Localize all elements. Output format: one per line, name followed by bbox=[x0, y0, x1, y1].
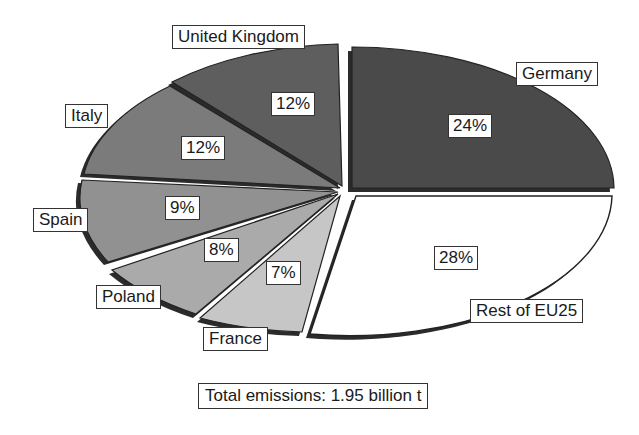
label-france: France bbox=[203, 327, 268, 351]
label-italy: Italy bbox=[65, 104, 108, 128]
percent-spain: 9% bbox=[165, 196, 200, 220]
percent-poland: 8% bbox=[204, 238, 239, 262]
label-poland: Poland bbox=[96, 285, 161, 309]
label-germany: Germany bbox=[516, 62, 598, 86]
percent-rest-of-eu25: 28% bbox=[434, 246, 478, 270]
percent-germany: 24% bbox=[448, 114, 492, 138]
percent-united-kingdom: 12% bbox=[271, 92, 315, 116]
percent-italy: 12% bbox=[181, 136, 225, 160]
label-spain: Spain bbox=[33, 208, 88, 232]
total-emissions-label: Total emissions: 1.95 billion t bbox=[198, 383, 428, 409]
label-rest-of-eu25: Rest of EU25 bbox=[470, 299, 583, 323]
label-united-kingdom: United Kingdom bbox=[172, 25, 305, 49]
percent-france: 7% bbox=[266, 261, 301, 285]
